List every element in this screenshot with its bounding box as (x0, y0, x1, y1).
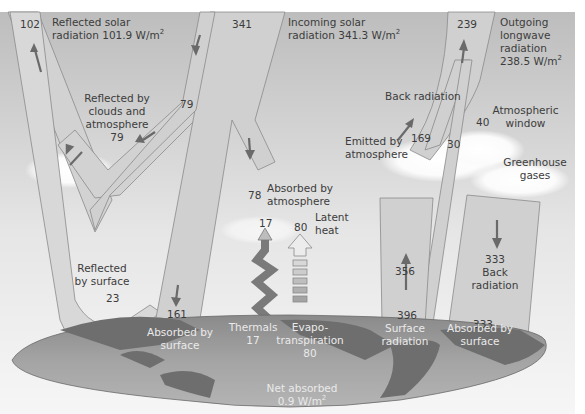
atmospheric-window-label: Atmospheric window (488, 104, 563, 130)
thermals-label: Thermals 17 (228, 321, 278, 347)
outgoing-longwave-label: Outgoing longwave radiation 238.5 W/m2 (500, 16, 562, 68)
back-radiation-surface-label: 333 Back radiation (470, 253, 520, 292)
incoming-solar-label: Incoming solar radiation 341.3 W/m2 (288, 16, 400, 42)
net-absorbed-label: Net absorbed 0.9 W/m2 (262, 382, 342, 408)
absorbed-by-surface-solar-label: Absorbed by surface (140, 326, 220, 352)
absorbed-by-atmosphere-value: 78 (248, 189, 261, 202)
absorbed-by-surface-solar-value: 161 (167, 308, 187, 321)
absorbed-by-atmosphere-label: Absorbed by atmosphere (267, 182, 333, 208)
emitted-by-atmosphere-label: Emitted by atmosphere (345, 135, 408, 161)
surface-radiation-bottom-value: 396 (397, 309, 417, 322)
reflected-by-surface-label: Reflected by surface (72, 262, 132, 288)
surface-radiation-mid-value: 356 (395, 265, 415, 278)
absorbed-by-surface-longwave-label: Absorbed by surface (440, 322, 520, 348)
latent-heat-label: Latent heat (315, 211, 349, 237)
thermals-top-value: 17 (259, 217, 272, 230)
evapotranspiration-label: Evapo- transpiration 80 (275, 321, 345, 360)
reflected-by-surface-value: 23 (106, 292, 119, 305)
reflected-by-clouds-branch-value: 79 (180, 98, 193, 111)
reflected-solar-value: 102 (20, 18, 40, 31)
greenhouse-gases-label: Greenhouse gases (500, 156, 570, 182)
back-radiation-top-label: Back radiation (385, 90, 461, 103)
surface-radiation-label: Surface radiation (375, 322, 435, 348)
cloud-emission-value: 30 (447, 138, 460, 151)
emitted-by-atmosphere-value: 169 (411, 132, 431, 145)
incoming-solar-value: 341 (232, 18, 252, 31)
reflected-solar-label: Reflected solar radiation 101.9 W/m2 (52, 16, 164, 42)
reflected-by-clouds-label: Reflected by clouds and atmosphere 79 (82, 92, 152, 144)
outgoing-longwave-value: 239 (457, 18, 477, 31)
latent-heat-top-value: 80 (294, 221, 307, 234)
